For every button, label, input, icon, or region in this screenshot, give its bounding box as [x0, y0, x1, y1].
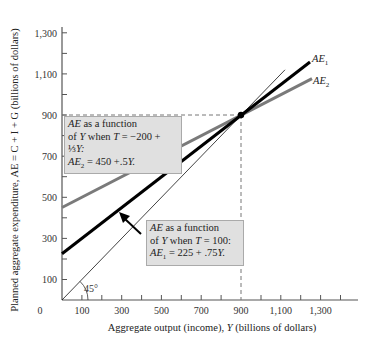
callout-ae1: AE as a function of Y when T = 100: AE1 …	[146, 220, 244, 266]
svg-text:300: 300	[114, 305, 129, 316]
callout-ae2-line3: AE2 = 450 +.5Y.	[68, 156, 178, 173]
arrow-to-ae1	[119, 212, 141, 234]
callout-ae1-line3: AE1 = 225 + .75Y.	[150, 247, 240, 264]
svg-text:1,100: 1,100	[270, 305, 293, 316]
svg-text:700: 700	[42, 151, 57, 162]
svg-text:300: 300	[42, 233, 57, 244]
svg-text:0: 0	[38, 305, 43, 316]
callout-ae2: AE as a function of Y when T = −200 + ⅓Y…	[64, 116, 182, 174]
svg-text:500: 500	[42, 192, 57, 203]
ae1-label: AE1	[312, 53, 328, 67]
angle-label: 45°	[84, 283, 98, 294]
svg-text:100: 100	[42, 274, 57, 285]
x-tick-labels: 0 100 300 500 700 900 1,100 1,300	[38, 305, 332, 316]
svg-text:1,300: 1,300	[35, 28, 58, 39]
svg-text:700: 700	[194, 305, 209, 316]
svg-text:900: 900	[42, 110, 57, 121]
callout-ae2-line1: AE as a function	[68, 118, 178, 131]
svg-text:1,300: 1,300	[309, 305, 332, 316]
svg-text:1,100: 1,100	[35, 69, 58, 80]
svg-text:500: 500	[154, 305, 169, 316]
y-axis-title: Planned aggregate expenditure, AE = C + …	[9, 28, 21, 312]
svg-text:100: 100	[74, 305, 89, 316]
callout-ae1-line1: AE as a function	[150, 222, 240, 235]
callout-ae1-line2: of Y when T = 100:	[150, 235, 240, 248]
ae2-label: AE2	[313, 75, 329, 89]
svg-text:900: 900	[234, 305, 249, 316]
y-tick-labels: 100 300 500 700 900 1,100 1,300	[35, 28, 58, 286]
x-ticks	[82, 295, 341, 300]
x-axis-title: Aggregate output (income), Y (billions o…	[108, 322, 317, 334]
equilibrium-point	[238, 112, 244, 118]
callout-ae2-line2: of Y when T = −200 + ⅓Y:	[68, 131, 178, 156]
